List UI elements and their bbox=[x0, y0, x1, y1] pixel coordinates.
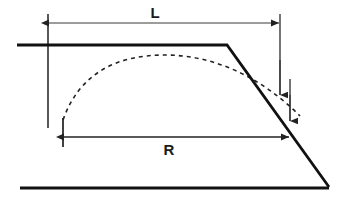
technical-diagram: L R bbox=[0, 0, 342, 197]
dimension-label-length: L bbox=[150, 4, 159, 21]
dimension-label-radius: R bbox=[164, 141, 175, 158]
diagram-canvas: L R bbox=[0, 0, 342, 197]
